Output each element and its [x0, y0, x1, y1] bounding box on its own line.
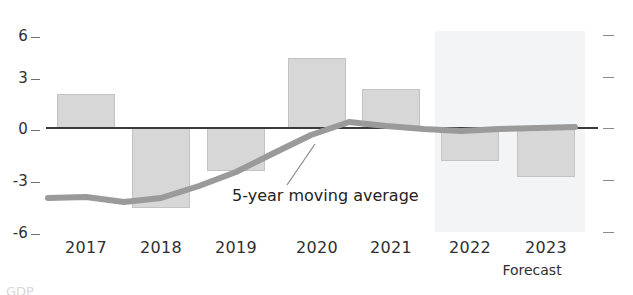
- right-axis-tick-neg6: [603, 232, 614, 233]
- y-axis-tick-neg6: -6: [6, 224, 40, 242]
- right-axis-tick-0: [603, 128, 614, 129]
- bar-2017[interactable]: [57, 94, 115, 128]
- y-axis-tick-6: 6: [6, 27, 40, 45]
- bar-2018[interactable]: [132, 128, 190, 208]
- moving-average-annotation: 5-year moving average: [232, 186, 419, 205]
- y-axis-tick-neg3-dash: [31, 182, 40, 183]
- chart-container: 6 3 0 -3 -6 5-year moving average 2017 2…: [0, 0, 633, 295]
- x-axis-tick-2019: 2019: [198, 238, 274, 257]
- right-axis-tick-3: [603, 77, 614, 78]
- bar-2023[interactable]: [517, 128, 575, 177]
- x-axis-tick-2020: 2020: [279, 238, 355, 257]
- y-axis-tick-0: 0: [6, 120, 40, 138]
- zero-axis-line: [46, 127, 598, 129]
- bar-2019[interactable]: [207, 128, 265, 171]
- x-axis-tick-2023: 2023: [508, 238, 584, 257]
- y-axis-tick-6-dash: [31, 37, 40, 38]
- x-axis-tick-2017: 2017: [48, 238, 124, 257]
- chart-footnote: GDP: [6, 284, 34, 295]
- y-axis-tick-neg6-dash: [31, 234, 40, 235]
- bar-2020[interactable]: [288, 58, 346, 128]
- y-axis-tick-neg3-label: -3: [13, 172, 28, 190]
- y-axis-tick-3: 3: [6, 69, 40, 87]
- y-axis-tick-0-label: 0: [18, 120, 28, 138]
- y-axis-tick-6-label: 6: [18, 27, 28, 45]
- right-axis-tick-6: [603, 35, 614, 36]
- y-axis-tick-3-label: 3: [18, 69, 28, 87]
- y-axis-tick-0-dash: [31, 130, 40, 131]
- bar-2022[interactable]: [441, 128, 499, 161]
- right-axis-tick-neg3: [603, 180, 614, 181]
- y-axis-tick-neg3: -3: [6, 172, 40, 190]
- x-axis-tick-2022: 2022: [432, 238, 508, 257]
- y-axis-tick-3-dash: [31, 79, 40, 80]
- annotation-leader-line: [287, 144, 315, 185]
- x-axis-tick-2021: 2021: [353, 238, 429, 257]
- bar-2021[interactable]: [362, 89, 420, 128]
- x-axis-tick-2018: 2018: [123, 238, 199, 257]
- forecast-region-label: Forecast: [472, 262, 592, 278]
- y-axis-tick-neg6-label: -6: [13, 224, 28, 242]
